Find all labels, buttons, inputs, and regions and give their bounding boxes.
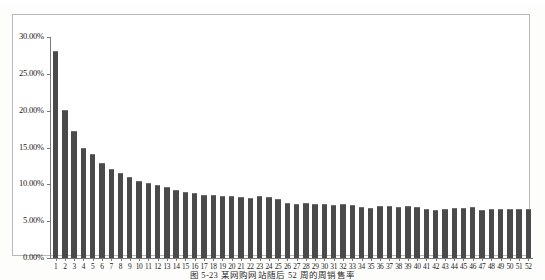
x-axis-tick-mark bbox=[158, 258, 159, 261]
bar[interactable] bbox=[62, 110, 67, 258]
bar[interactable] bbox=[387, 206, 392, 258]
x-axis-tick-mark bbox=[232, 258, 233, 261]
x-axis-tick-mark bbox=[510, 258, 511, 261]
bar[interactable] bbox=[257, 196, 262, 258]
x-axis-tick-mark bbox=[250, 258, 251, 261]
y-axis-tick-label: 30.00% bbox=[19, 31, 44, 41]
bar-slot bbox=[99, 37, 104, 258]
bar[interactable] bbox=[275, 199, 280, 258]
bar[interactable] bbox=[173, 190, 178, 258]
x-axis-tick-mark bbox=[528, 258, 529, 261]
bar[interactable] bbox=[109, 169, 114, 258]
x-axis-tick-mark bbox=[260, 258, 261, 261]
bar-slot bbox=[211, 37, 216, 258]
bar-slot bbox=[312, 37, 317, 258]
x-axis-line bbox=[50, 258, 533, 259]
bar-slot bbox=[201, 37, 206, 258]
bar[interactable] bbox=[526, 209, 531, 258]
bar[interactable] bbox=[322, 204, 327, 258]
bar[interactable] bbox=[368, 208, 373, 258]
bar[interactable] bbox=[81, 148, 86, 259]
bar[interactable] bbox=[461, 208, 466, 258]
x-axis-tick-mark bbox=[287, 258, 288, 261]
bar[interactable] bbox=[396, 207, 401, 258]
bar[interactable] bbox=[248, 198, 253, 258]
bar[interactable] bbox=[442, 209, 447, 258]
bar[interactable] bbox=[303, 203, 308, 258]
bar[interactable] bbox=[489, 209, 494, 258]
x-axis-tick-mark bbox=[417, 258, 418, 261]
x-axis-tick-mark bbox=[436, 258, 437, 261]
x-axis-tick-mark bbox=[65, 258, 66, 261]
bar[interactable] bbox=[164, 187, 169, 258]
x-axis-tick-mark bbox=[463, 258, 464, 261]
x-axis-tick-mark bbox=[130, 258, 131, 261]
bar[interactable] bbox=[238, 197, 243, 258]
bar-slot bbox=[405, 37, 410, 258]
bar[interactable] bbox=[498, 209, 503, 258]
bar[interactable] bbox=[470, 207, 475, 258]
bar-slot bbox=[442, 37, 447, 258]
bar-slot bbox=[396, 37, 401, 258]
bar[interactable] bbox=[479, 210, 484, 258]
x-axis-tick-mark bbox=[297, 258, 298, 261]
bar-slot bbox=[275, 37, 280, 258]
bar[interactable] bbox=[312, 204, 317, 259]
bar-slot bbox=[53, 37, 58, 258]
x-axis-tick-mark bbox=[408, 258, 409, 261]
bar-slot bbox=[173, 37, 178, 258]
bar[interactable] bbox=[155, 185, 160, 258]
bar-slot bbox=[526, 37, 531, 258]
bar[interactable] bbox=[507, 209, 512, 258]
bar[interactable] bbox=[350, 205, 355, 258]
bar-slot bbox=[377, 37, 382, 258]
bar[interactable] bbox=[424, 209, 429, 258]
bar[interactable] bbox=[414, 207, 419, 258]
bar-slot bbox=[498, 37, 503, 258]
chart-plot-frame: 0.00%5.00%10.00%15.00%20.00%25.00%30.00%… bbox=[12, 14, 530, 256]
bar[interactable] bbox=[118, 173, 123, 258]
bar-slot bbox=[368, 37, 373, 258]
bar[interactable] bbox=[359, 207, 364, 258]
bar-slot bbox=[62, 37, 67, 258]
x-axis-tick-mark bbox=[306, 258, 307, 261]
x-axis-tick-mark bbox=[380, 258, 381, 261]
bar[interactable] bbox=[285, 203, 290, 258]
x-axis-tick-mark bbox=[83, 258, 84, 261]
bar-slot bbox=[257, 37, 262, 258]
x-axis-tick-mark bbox=[519, 258, 520, 261]
figure-container: 0.00%5.00%10.00%15.00%20.00%25.00%30.00%… bbox=[0, 0, 545, 280]
bar[interactable] bbox=[220, 196, 225, 258]
bar[interactable] bbox=[294, 204, 299, 259]
x-axis-tick-mark bbox=[222, 258, 223, 261]
bar[interactable] bbox=[266, 197, 271, 258]
bar[interactable] bbox=[211, 195, 216, 258]
bar[interactable] bbox=[201, 195, 206, 258]
x-axis-tick-mark bbox=[278, 258, 279, 261]
bar[interactable] bbox=[340, 204, 345, 258]
bar[interactable] bbox=[229, 196, 234, 258]
bar[interactable] bbox=[136, 181, 141, 258]
bar[interactable] bbox=[331, 205, 336, 258]
bar[interactable] bbox=[127, 177, 132, 258]
bar-slot bbox=[507, 37, 512, 258]
bar[interactable] bbox=[90, 154, 95, 258]
bar[interactable] bbox=[433, 210, 438, 258]
bar[interactable] bbox=[183, 192, 188, 258]
y-axis-tick-label: 0.00% bbox=[23, 252, 44, 262]
bar[interactable] bbox=[192, 193, 197, 258]
bar-slot bbox=[285, 37, 290, 258]
bar[interactable] bbox=[53, 51, 58, 258]
bar[interactable] bbox=[71, 131, 76, 258]
bar[interactable] bbox=[146, 183, 151, 258]
x-axis-tick-mark bbox=[426, 258, 427, 261]
bar[interactable] bbox=[405, 206, 410, 258]
bar[interactable] bbox=[377, 206, 382, 258]
x-axis-tick-mark bbox=[324, 258, 325, 261]
bar[interactable] bbox=[516, 209, 521, 258]
bar[interactable] bbox=[99, 163, 104, 258]
x-axis-tick-mark bbox=[445, 258, 446, 261]
bar-slot bbox=[461, 37, 466, 258]
bar[interactable] bbox=[452, 208, 457, 258]
x-axis-tick-mark bbox=[111, 258, 112, 261]
